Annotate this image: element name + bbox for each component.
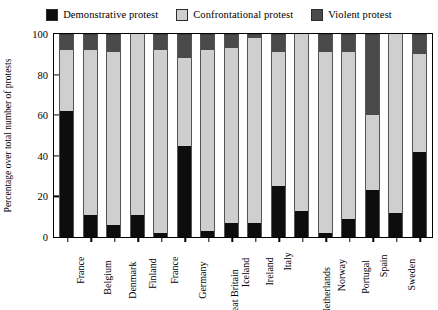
segment-violent (83, 34, 98, 50)
segment-violent (153, 34, 168, 50)
bar-belgium (83, 34, 98, 237)
segment-violent (318, 34, 333, 52)
bar-norway (318, 34, 333, 237)
bar-spain (365, 34, 380, 237)
stacked-bar-chart: Demonstrative protestConfrontational pro… (0, 0, 438, 310)
segment-confrontational (83, 50, 98, 214)
legend-entry: Confrontational protest (176, 9, 293, 21)
y-axis-title: Percentage over total number of protests (2, 33, 14, 238)
segment-violent (224, 34, 239, 48)
x-tick-mark (114, 237, 115, 242)
segment-confrontational (341, 52, 356, 218)
x-tick-label: Finland (147, 258, 158, 289)
segment-confrontational (200, 50, 215, 231)
y-tick-label: 20 (38, 191, 55, 202)
x-tick-label: Norway (336, 259, 347, 291)
segment-demonstrative (271, 186, 286, 237)
legend-swatch-icon (46, 9, 58, 21)
chart-legend: Demonstrative protestConfrontational pro… (0, 6, 438, 24)
segment-violent (365, 34, 380, 115)
y-tick-label: 100 (32, 29, 54, 40)
y-tick-label: 40 (38, 150, 55, 161)
bar-switzerland (412, 34, 427, 237)
segment-violent (177, 34, 192, 58)
x-tick-mark (208, 237, 209, 242)
x-axis-labels: FranceBelgiumDenmarkFinlandFranceGermany… (53, 243, 433, 309)
segment-confrontational (294, 34, 309, 211)
segment-demonstrative (130, 215, 145, 237)
bar-finland (130, 34, 145, 237)
x-tick-label: Spain (378, 254, 389, 277)
bar-germany (177, 34, 192, 237)
bar-portugal (341, 34, 356, 237)
bar-france (59, 34, 74, 237)
x-tick-label: Denmark (127, 262, 138, 299)
segment-demonstrative (59, 111, 74, 237)
legend-label: Confrontational protest (193, 9, 293, 21)
segment-demonstrative (247, 223, 262, 237)
segment-violent (59, 34, 74, 50)
x-tick-label: Iceland (240, 258, 251, 287)
bar-group (54, 34, 432, 237)
legend-entry: Demonstrative protest (46, 9, 158, 21)
x-tick-label: France (75, 257, 86, 284)
x-tick-mark (420, 237, 421, 242)
x-tick-mark (326, 237, 327, 242)
legend-swatch-icon (176, 9, 188, 21)
x-tick-label: Sweden (406, 259, 417, 291)
plot-area: 020406080100 (53, 33, 433, 238)
x-tick-label: France (169, 257, 180, 284)
segment-demonstrative (365, 190, 380, 237)
segment-confrontational (59, 50, 74, 111)
x-tick-mark (138, 237, 139, 242)
x-tick-mark (185, 237, 186, 242)
segment-violent (271, 34, 286, 52)
x-tick-label: Ireland (263, 257, 274, 285)
segment-demonstrative (177, 146, 192, 237)
x-tick-mark (302, 237, 303, 242)
segment-violent (412, 34, 427, 54)
segment-demonstrative (412, 152, 427, 237)
segment-confrontational (153, 50, 168, 233)
segment-confrontational (412, 54, 427, 151)
y-tick-label: 80 (38, 69, 55, 80)
x-tick-mark (396, 237, 397, 242)
x-tick-label: Italy (282, 252, 293, 270)
legend-label: Violent protest (328, 9, 392, 21)
bar-italy (271, 34, 286, 237)
bar-great-britain (200, 34, 215, 237)
segment-confrontational (318, 52, 333, 233)
segment-confrontational (388, 34, 403, 213)
bar-france (153, 34, 168, 237)
segment-confrontational (177, 58, 192, 145)
x-tick-mark (67, 237, 68, 242)
x-tick-label: Netherlands (320, 267, 331, 310)
legend-entry: Violent protest (311, 9, 392, 21)
x-tick-mark (232, 237, 233, 242)
x-tick-label: Germany (197, 262, 208, 299)
bar-sweden (388, 34, 403, 237)
segment-violent (200, 34, 215, 50)
segment-confrontational (247, 38, 262, 223)
x-tick-label: Portugal (360, 260, 371, 294)
y-tick-label: 60 (38, 110, 55, 121)
segment-demonstrative (83, 215, 98, 237)
legend-swatch-icon (311, 9, 323, 21)
bar-iceland (224, 34, 239, 237)
segment-violent (106, 34, 121, 52)
segment-confrontational (224, 48, 239, 223)
bar-denmark (106, 34, 121, 237)
segment-demonstrative (106, 225, 121, 237)
x-tick-mark (255, 237, 256, 242)
legend-label: Demonstrative protest (63, 9, 158, 21)
bar-ireland (247, 34, 262, 237)
y-tick-label: 0 (43, 232, 54, 243)
segment-confrontational (271, 52, 286, 186)
x-tick-label: Great Britain (228, 269, 239, 310)
segment-demonstrative (341, 219, 356, 237)
segment-confrontational (365, 115, 380, 190)
x-tick-mark (279, 237, 280, 242)
segment-confrontational (130, 34, 145, 215)
segment-demonstrative (388, 213, 403, 237)
bar-netherlands (294, 34, 309, 237)
